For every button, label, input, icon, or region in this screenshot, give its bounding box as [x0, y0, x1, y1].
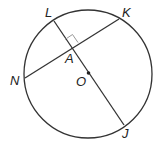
label-k: K [122, 5, 132, 20]
label-n: N [10, 73, 20, 88]
circle-diagram: L K A N O J [0, 0, 163, 142]
label-o: O [76, 74, 86, 89]
label-a: A [64, 51, 74, 66]
label-l: L [45, 5, 52, 20]
center-point-o [87, 71, 91, 75]
chord-nk [25, 19, 119, 78]
label-j: J [121, 126, 129, 141]
